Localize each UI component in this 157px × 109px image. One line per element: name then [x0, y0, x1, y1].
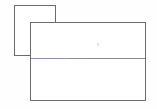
foreground-window-lower-pane[interactable]: [31, 59, 145, 100]
screenshot-canvas: [0, 0, 157, 109]
foreground-window[interactable]: [30, 22, 146, 101]
horizontal-divider[interactable]: [31, 58, 145, 59]
faint-mark-icon: [97, 43, 99, 46]
foreground-window-upper-pane[interactable]: [31, 23, 145, 58]
